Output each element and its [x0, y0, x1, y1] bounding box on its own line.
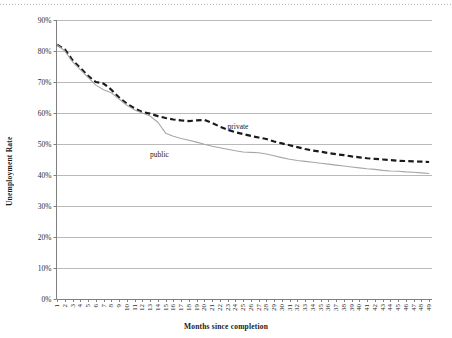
x-axis-tick-label: 9	[116, 304, 123, 308]
x-axis-tick-label: 33	[302, 304, 309, 311]
series-label-public: public	[150, 150, 169, 159]
x-axis-tick-label: 12	[139, 304, 146, 311]
x-axis-tick-label: 48	[418, 304, 425, 311]
x-axis-tick-label: 6	[93, 304, 100, 308]
gridlines	[57, 21, 433, 269]
x-axis-tick-label: 10	[124, 304, 131, 311]
x-axis-tick-label: 21	[209, 304, 216, 311]
x-axis-tick-label: 28	[263, 304, 270, 311]
y-axis-tick-label: 30%	[18, 203, 52, 211]
x-axis-tick-label: 4	[77, 304, 84, 308]
x-axis-tick-label: 34	[310, 304, 317, 311]
x-axis-tick-label: 25	[240, 304, 247, 311]
y-axis-tick-label: 80%	[18, 48, 52, 56]
chart-container: Unemployment Rate Months since completio…	[0, 0, 452, 338]
x-axis-tick-label: 22	[217, 304, 224, 311]
series-line-public	[57, 45, 429, 174]
x-axis-tick-label: 40	[356, 304, 363, 311]
x-axis-tick-label: 42	[372, 304, 379, 311]
x-axis-tick-label: 16	[170, 304, 177, 311]
x-axis-tick-label: 8	[108, 304, 115, 308]
x-axis-tick-label: 13	[147, 304, 154, 311]
x-axis-tick-label: 38	[341, 304, 348, 311]
y-axis-tick-label: 0%	[18, 296, 52, 304]
y-axis-tick-label: 90%	[18, 17, 52, 25]
x-axis-tick-label: 17	[178, 304, 185, 311]
x-axis-tick-label: 29	[271, 304, 278, 311]
series-label-private: private	[228, 122, 249, 131]
x-axis-tick-label: 30	[279, 304, 286, 311]
y-axis-tick-label: 40%	[18, 172, 52, 180]
x-axis-tick-label: 5	[85, 304, 92, 308]
x-axis-tick-label: 46	[403, 304, 410, 311]
y-axis-tick-label: 60%	[18, 110, 52, 118]
x-axis-tick-label: 32	[294, 304, 301, 311]
x-axis-tick-label: 37	[333, 304, 340, 311]
y-axis-tick-label: 10%	[18, 265, 52, 273]
x-axis-tick-label: 14	[155, 304, 162, 311]
x-axis-tick-label: 18	[186, 304, 193, 311]
y-axis-tick-label: 70%	[18, 79, 52, 87]
x-axis-tick-label: 45	[395, 304, 402, 311]
plot-area	[0, 0, 452, 338]
x-axis-tick-label: 20	[201, 304, 208, 311]
x-axis-tick-label: 41	[364, 304, 371, 311]
x-axis-tick-label: 24	[232, 304, 239, 311]
y-axis-tick-label: 20%	[18, 234, 52, 242]
x-axis-tick-label: 44	[387, 304, 394, 311]
x-axis-tick-label: 26	[248, 304, 255, 311]
series-lines	[57, 45, 429, 174]
x-axis-tick-label: 49	[426, 304, 433, 311]
x-axis-tick-label: 36	[325, 304, 332, 311]
y-axis-tick-label: 50%	[18, 141, 52, 149]
x-axis-tick-label: 1	[54, 304, 61, 308]
x-axis-tick-label: 2	[62, 304, 69, 308]
